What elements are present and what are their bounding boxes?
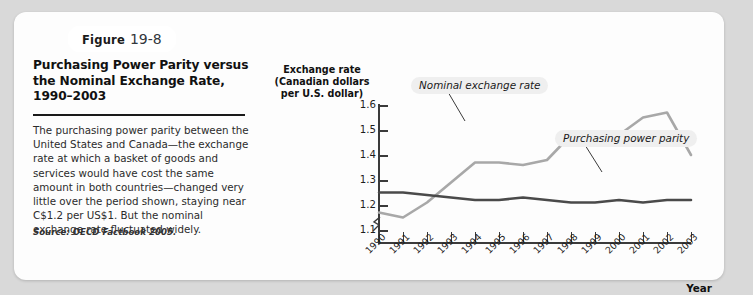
annotation-leader-ppp — [585, 145, 602, 172]
title-divider — [33, 114, 245, 116]
figure-number-badge: Figure19-8 — [68, 26, 176, 52]
figure-title: Purchasing Power Parity versus the Nomin… — [33, 58, 249, 105]
series-label-nominal-exchange-rate: Nominal exchange rate — [411, 77, 548, 94]
figure-number: 19-8 — [130, 31, 162, 47]
annotation-leader-nominal — [448, 92, 465, 121]
x-axis-title: Year — [686, 282, 712, 294]
figure-label: Figure — [82, 33, 125, 47]
figure-card: Figure19-8 Purchasing Power Parity versu… — [14, 12, 724, 280]
series-line-purchasing-power-parity — [379, 193, 691, 203]
figure-caption-column: Figure19-8 Purchasing Power Parity versu… — [30, 20, 256, 270]
chart: Exchange rate (Canadian dollars per U.S.… — [258, 20, 718, 272]
figure-description: The purchasing power parity between the … — [33, 123, 251, 237]
figure-source: Source: OECD Factbook 2005. — [33, 227, 251, 237]
series-label-purchasing-power-parity: Purchasing power parity — [555, 130, 697, 147]
